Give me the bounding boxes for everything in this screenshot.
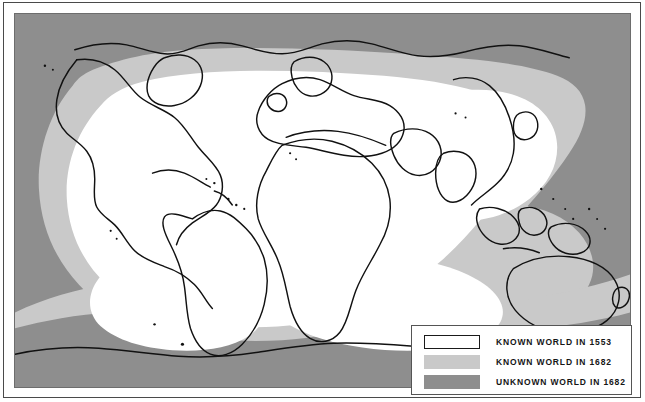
known-1682-swatch [424, 355, 480, 369]
known-1553-swatch [424, 335, 480, 349]
unknown-1682-swatch [424, 375, 480, 389]
legend-item-known-1553: KNOWN WORLD IN 1553 [424, 334, 612, 349]
legend-label-known-1682: KNOWN WORLD IN 1682 [496, 357, 612, 367]
legend-label-known-1553: KNOWN WORLD IN 1553 [496, 337, 612, 347]
map-plate: KNOWN WORLD IN 1553 KNOWN WORLD IN 1682 … [0, 0, 645, 402]
legend-label-unknown-1682: UNKNOWN WORLD IN 1682 [496, 377, 626, 387]
legend-item-unknown-1682: UNKNOWN WORLD IN 1682 [424, 374, 626, 389]
legend-item-known-1682: KNOWN WORLD IN 1682 [424, 354, 612, 369]
map-legend: KNOWN WORLD IN 1553 KNOWN WORLD IN 1682 … [411, 325, 632, 395]
